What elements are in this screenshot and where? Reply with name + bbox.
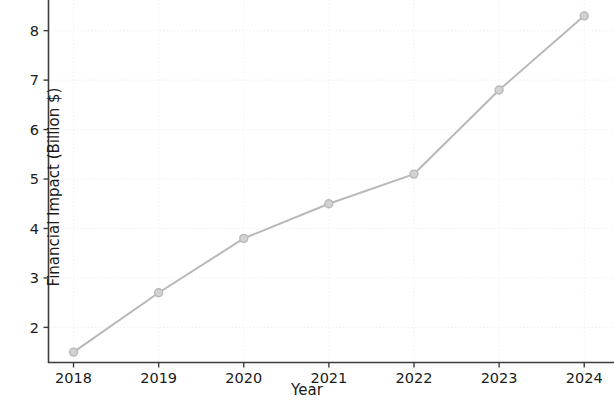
data-point-marker bbox=[580, 12, 588, 20]
line-chart-figure: 2345678 2018201920202021202220232024 Yea… bbox=[0, 0, 614, 404]
y-tick-label: 3 bbox=[30, 270, 39, 286]
data-point-marker bbox=[325, 200, 333, 208]
data-point-marker bbox=[410, 170, 418, 178]
plot-background bbox=[48, 0, 614, 363]
y-tick-label: 4 bbox=[30, 221, 39, 237]
y-tick-label: 5 bbox=[30, 171, 39, 187]
data-point-marker bbox=[70, 348, 78, 356]
y-tick-label: 6 bbox=[30, 122, 39, 138]
data-point-marker bbox=[240, 234, 248, 242]
x-axis-label: Year bbox=[0, 381, 614, 399]
y-tick-label: 8 bbox=[30, 23, 39, 39]
data-point-marker bbox=[495, 86, 503, 94]
chart-canvas: 2345678 2018201920202021202220232024 bbox=[0, 0, 614, 404]
y-axis-label: Financial Impact (Billion $) bbox=[45, 37, 63, 337]
data-point-marker bbox=[155, 289, 163, 297]
y-tick-label: 2 bbox=[30, 320, 39, 336]
y-tick-label: 7 bbox=[30, 72, 39, 88]
